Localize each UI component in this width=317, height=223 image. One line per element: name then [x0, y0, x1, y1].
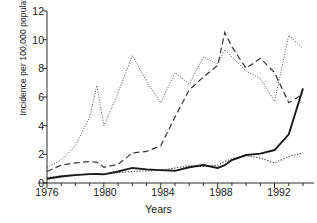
- chart-figure: 12 10 8 6 4 2 0 Incidence per 100,000 po…: [0, 0, 317, 223]
- series-thin-dotted-high: [47, 35, 303, 167]
- series-dashed: [47, 33, 303, 172]
- plot-area: [0, 0, 317, 223]
- series-solid: [47, 88, 303, 178]
